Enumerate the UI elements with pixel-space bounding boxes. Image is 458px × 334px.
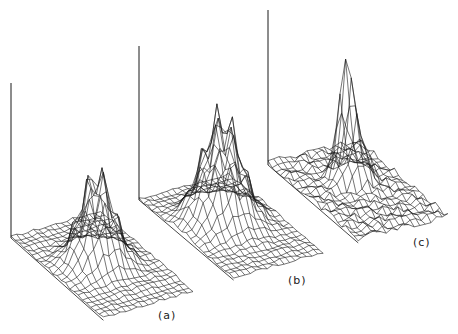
panel-label-a: (a) bbox=[158, 309, 176, 322]
wireframe-mesh bbox=[268, 59, 448, 241]
surface-plot-c bbox=[268, 10, 448, 243]
panel-label-b: (b) bbox=[288, 274, 307, 287]
wireframe-mesh bbox=[11, 168, 193, 317]
surface-plot-b bbox=[139, 46, 323, 280]
wireframe-surface-plots bbox=[0, 0, 458, 334]
panel-label-c: (c) bbox=[413, 236, 431, 249]
wireframe-mesh bbox=[139, 104, 323, 278]
figure: (a) (b) (c) bbox=[0, 0, 458, 334]
